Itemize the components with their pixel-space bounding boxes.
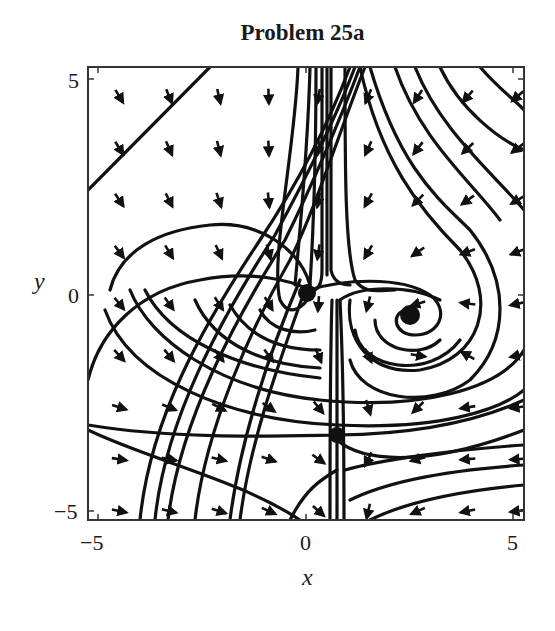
field-arrow bbox=[112, 405, 126, 410]
field-arrow bbox=[166, 193, 173, 206]
field-arrow bbox=[365, 245, 373, 258]
field-arrow bbox=[164, 350, 174, 362]
field-arrow bbox=[115, 90, 123, 103]
field-arrow bbox=[212, 457, 227, 461]
x-tick-5: 5 bbox=[507, 530, 518, 556]
y-tick-neg5: −5 bbox=[54, 499, 77, 525]
y-tick-5: 5 bbox=[68, 68, 79, 94]
field-arrow bbox=[216, 245, 222, 259]
sink-equilibrium bbox=[298, 284, 316, 302]
y-axis-label: y bbox=[34, 268, 45, 295]
field-arrow bbox=[115, 298, 125, 310]
field-arrow bbox=[268, 193, 270, 208]
field-arrow bbox=[461, 510, 476, 513]
field-arrow bbox=[115, 246, 124, 258]
field-arrow bbox=[267, 245, 271, 260]
field-arrow bbox=[511, 249, 525, 254]
field-arrow bbox=[510, 354, 525, 357]
field-arrow bbox=[414, 90, 422, 103]
field-arrow bbox=[512, 91, 523, 101]
field-arrow bbox=[314, 402, 324, 414]
field-arrow bbox=[162, 509, 177, 513]
field-arrow bbox=[462, 196, 474, 205]
spiral-equilibrium bbox=[400, 305, 420, 325]
field-arrow bbox=[463, 91, 473, 102]
x-axis-label: x bbox=[302, 564, 313, 591]
x-tick-neg5: −5 bbox=[80, 530, 103, 556]
field-arrow bbox=[312, 455, 324, 464]
field-arrow bbox=[367, 504, 370, 519]
field-arrow bbox=[115, 194, 123, 207]
field-arrow bbox=[114, 350, 124, 361]
field-arrow bbox=[112, 510, 127, 513]
field-arrow bbox=[510, 459, 525, 460]
field-arrow bbox=[412, 248, 424, 257]
field-arrow bbox=[262, 508, 276, 514]
field-arrow bbox=[411, 302, 425, 306]
x-tick-0: 0 bbox=[300, 530, 311, 556]
field-arrow bbox=[217, 141, 221, 156]
direction-field-arrows bbox=[112, 89, 525, 519]
field-arrow bbox=[414, 142, 423, 154]
field-arrow bbox=[365, 141, 371, 155]
field-arrow bbox=[212, 509, 226, 514]
field-arrow bbox=[365, 193, 372, 206]
field-arrow bbox=[217, 89, 220, 104]
field-arrow bbox=[262, 457, 276, 462]
field-arrow bbox=[413, 402, 424, 413]
field-arrow bbox=[268, 141, 269, 156]
field-arrow bbox=[461, 352, 474, 359]
field-arrow bbox=[313, 506, 324, 516]
field-arrow bbox=[165, 245, 173, 258]
field-arrow bbox=[165, 298, 174, 310]
field-arrow bbox=[460, 303, 475, 305]
field-arrow bbox=[112, 458, 127, 460]
field-arrow bbox=[366, 296, 370, 311]
field-arrow bbox=[166, 89, 172, 103]
field-arrow bbox=[268, 89, 269, 104]
field-arrow bbox=[217, 193, 222, 207]
y-tick-0: 0 bbox=[68, 283, 79, 309]
field-arrow bbox=[166, 141, 172, 155]
field-arrow bbox=[317, 244, 319, 259]
field-arrow bbox=[460, 459, 475, 460]
saddle-equilibrium bbox=[329, 427, 345, 443]
field-arrow bbox=[510, 302, 525, 305]
field-arrow bbox=[115, 142, 123, 155]
field-arrow bbox=[460, 406, 475, 408]
field-arrow bbox=[318, 296, 319, 311]
field-arrow bbox=[411, 508, 425, 514]
field-arrow bbox=[411, 354, 426, 356]
